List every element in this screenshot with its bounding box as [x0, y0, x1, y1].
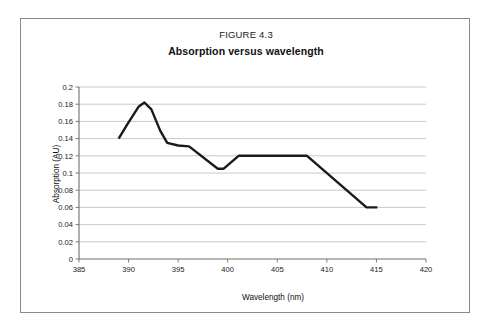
svg-text:420: 420 [420, 265, 433, 274]
svg-text:0.2: 0.2 [62, 83, 73, 92]
svg-text:0.14: 0.14 [58, 134, 73, 143]
svg-text:0: 0 [69, 255, 73, 264]
gridlines-group [79, 87, 426, 242]
y-axis-title: Absorption (AU) [52, 145, 61, 204]
svg-text:390: 390 [122, 265, 135, 274]
x-axis-tick-labels: 385390395400405410415420 [73, 259, 433, 274]
data-line-absorption [119, 102, 378, 207]
svg-text:0.18: 0.18 [58, 100, 73, 109]
svg-text:405: 405 [271, 265, 284, 274]
svg-text:410: 410 [321, 265, 334, 274]
svg-text:0.04: 0.04 [58, 220, 73, 229]
svg-text:415: 415 [370, 265, 383, 274]
svg-text:0.02: 0.02 [58, 238, 73, 247]
data-series-group [119, 102, 378, 207]
svg-text:385: 385 [73, 265, 86, 274]
svg-text:0.1: 0.1 [62, 169, 73, 178]
svg-text:400: 400 [221, 265, 234, 274]
svg-text:395: 395 [172, 265, 185, 274]
absorption-line-chart: 385390395400405410415420 00.020.040.060.… [21, 19, 471, 314]
figure-frame: FIGURE 4.3 Absorption versus wavelength … [20, 18, 470, 313]
svg-text:0.16: 0.16 [58, 117, 73, 126]
y-axis-tick-labels: 00.020.040.060.080.10.120.140.160.180.2 [58, 83, 79, 264]
x-axis-title: Wavelength (nm) [242, 293, 304, 302]
svg-text:0.06: 0.06 [58, 203, 73, 212]
